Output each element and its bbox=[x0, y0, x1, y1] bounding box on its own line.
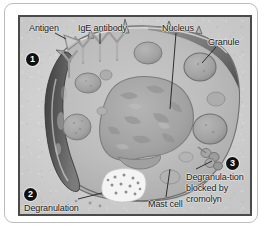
label-degranulation: Degranulation bbox=[24, 203, 79, 214]
marker-3: 3 bbox=[226, 157, 239, 170]
label-antigen: Antigen bbox=[29, 23, 59, 34]
label-granule: Granule bbox=[208, 37, 239, 48]
mast-cell-illustration: Antigen IgE antibody Nucleus Granule Mas… bbox=[18, 15, 252, 216]
marker-1: 1 bbox=[26, 53, 39, 66]
marker-2: 2 bbox=[24, 188, 37, 201]
label-mast-cell: Mast cell bbox=[148, 199, 183, 210]
figure-frame: Antigen IgE antibody Nucleus Granule Mas… bbox=[4, 3, 258, 223]
label-ige-antibody: IgE antibody bbox=[78, 23, 127, 34]
label-degranulation-blocked-by-cromolyn: Degranula-tion blocked by cromolyn bbox=[186, 172, 250, 205]
label-nucleus: Nucleus bbox=[162, 23, 194, 34]
